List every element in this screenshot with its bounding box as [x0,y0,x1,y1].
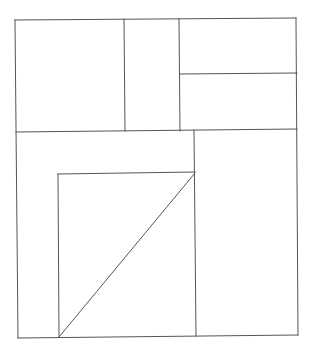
background [0,0,312,352]
diagram-canvas [0,0,312,352]
